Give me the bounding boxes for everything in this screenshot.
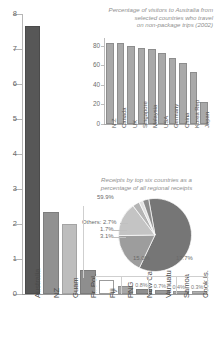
main-x-category-label: Fr. Pol. (90, 274, 98, 298)
inset-title-line-3: on non-package trips (2002) (74, 21, 213, 29)
main-y-tick-label: 2 (2, 220, 17, 228)
infographic-figure: 8765432100.8%0.7%0.4%0.3% AustraliaNZGua… (0, 0, 215, 355)
inset-x-category-label: Korea Rep (195, 100, 201, 128)
inset-bar (127, 46, 134, 124)
inset-x-category-label: UK (133, 120, 139, 128)
main-x-category-label: Fiji (109, 288, 117, 298)
inset-y-tick-label: 20 (88, 101, 100, 107)
pie-chart-title: Receipts by top six countries as a perce… (80, 176, 213, 191)
inset-bar (158, 53, 165, 124)
callout-connector-vertical (83, 206, 84, 278)
main-bar (43, 212, 58, 295)
inset-x-category-label: Malaysia (153, 105, 159, 128)
inset-x-category-label: N.Z (112, 119, 118, 129)
main-x-category-label: Guam (72, 277, 80, 298)
inset-y-tick (101, 124, 104, 125)
inset-x-category-label: Singapore (143, 101, 149, 128)
inset-x-category-label: Canada (122, 107, 128, 128)
pie-chart: Receipts by top six countries as a perce… (80, 176, 215, 276)
pie-leader-line-3-1 (113, 237, 126, 238)
inset-x-category-label: China (185, 113, 191, 128)
inset-y-tick-label: 60 (88, 62, 100, 68)
pie-leader-line-1-7 (113, 230, 127, 231)
callout-bracket-left (95, 276, 96, 294)
main-x-category-label: Samoa (183, 274, 191, 298)
inset-bar-chart: Percentage of visitors to Australia from… (86, 6, 215, 151)
main-y-tick-label: 6 (2, 80, 17, 88)
inset-y-tick-label: 80 (88, 43, 100, 49)
pie-title-line-2: percentage of all regional receipts (80, 184, 213, 192)
pie-label-17-7: 17.7% (176, 256, 193, 262)
inset-y-tick-label: 0 (88, 121, 100, 127)
main-x-category-label: Australia (34, 268, 42, 298)
pie-title-line-1: Receipts by top six countries as a (80, 176, 213, 184)
main-y-tick-label: 5 (2, 115, 17, 123)
callout-bracket-top (95, 276, 208, 277)
callout-bracket-tick-2 (148, 276, 149, 294)
pie-leader-line-others (120, 223, 128, 224)
main-y-tick-label: 4 (2, 150, 17, 158)
inset-x-category-label: USA (164, 116, 170, 128)
callout-bracket-tick-3 (176, 276, 177, 294)
inset-title-line-2: selected countries who travel (74, 14, 213, 22)
main-y-tick-label: 3 (2, 185, 17, 193)
inset-y-tick (101, 65, 104, 66)
inset-title-line-1: Percentage of visitors to Australia from (74, 6, 213, 14)
main-x-category-label: PNG (127, 282, 135, 298)
inset-chart-title: Percentage of visitors to Australia from… (74, 6, 213, 29)
inset-y-tick-label: 40 (88, 82, 100, 88)
pie-label-3-1: 3.1% (100, 234, 113, 240)
main-y-tick-label: 8 (2, 10, 17, 18)
inset-y-tick (101, 104, 104, 105)
inset-x-category-label: Japan (205, 112, 211, 128)
main-x-category-label: NZ (53, 288, 61, 298)
inset-y-tick (101, 85, 104, 86)
main-y-tick-label: 7 (2, 45, 17, 53)
main-y-tick-label: 1 (2, 255, 17, 263)
inset-x-category-label: Germany (174, 104, 180, 128)
pie-label-59-9: 59.9% (97, 195, 114, 201)
pie-label-15-0: 15.0% (133, 256, 150, 262)
inset-bar (106, 43, 113, 124)
inset-y-tick (101, 46, 104, 47)
callout-bracket-right (207, 276, 208, 294)
main-bar (25, 26, 40, 294)
main-y-tick-label: 0 (2, 290, 17, 298)
callout-bracket-tick-1 (121, 276, 122, 294)
